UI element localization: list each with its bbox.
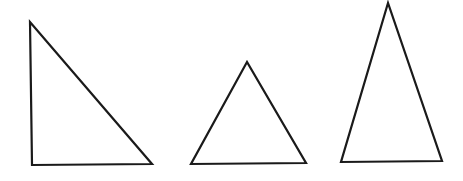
isosceles-triangle <box>341 3 442 162</box>
right-triangle <box>30 22 152 165</box>
triangles-diagram <box>0 0 463 181</box>
equilateral-triangle <box>191 62 306 164</box>
